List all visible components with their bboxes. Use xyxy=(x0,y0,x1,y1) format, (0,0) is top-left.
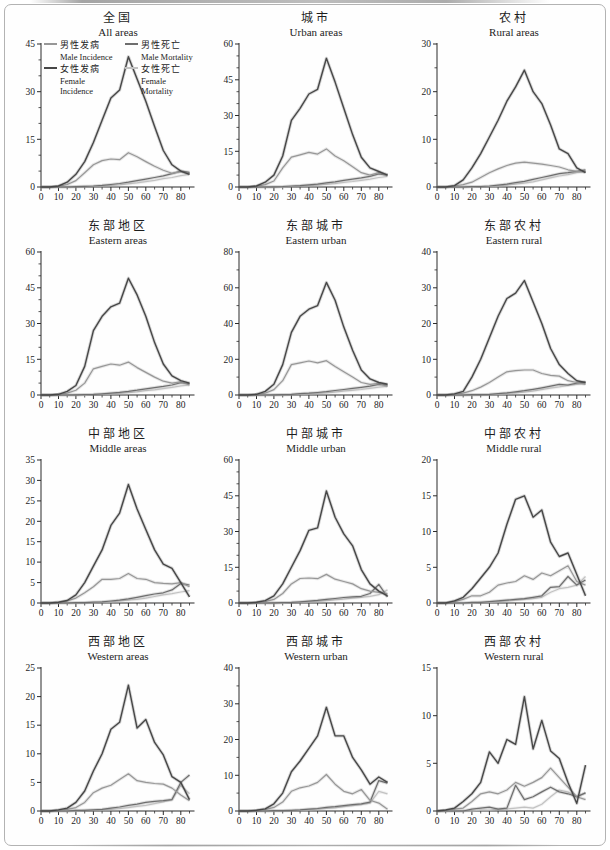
chart-plot-area: 01020304001020304050607080 xyxy=(410,246,596,418)
svg-text:30: 30 xyxy=(422,283,432,293)
svg-text:60: 60 xyxy=(141,400,151,410)
chart-rural-areas: 农村Rural areas010203001020304050607080 xyxy=(406,10,600,216)
svg-text:30: 30 xyxy=(287,816,297,826)
svg-text:10: 10 xyxy=(224,771,234,781)
chart-title-en: Eastern areas xyxy=(32,234,204,247)
chart-plot-area: 01530456001020304050607080 xyxy=(212,38,398,210)
series-female-incidence-line xyxy=(239,283,388,396)
svg-text:70: 70 xyxy=(555,192,565,202)
chart-plot: 01530456001020304050607080 xyxy=(212,38,398,206)
chart-middle-urban: 中部城市Middle urban015304560010203040506070… xyxy=(208,426,402,632)
legend-entry-female-mortality: 女性死亡Female Mortality xyxy=(125,64,197,97)
chart-plot-area: 02040608001020304050607080 xyxy=(212,246,398,418)
svg-text:10: 10 xyxy=(252,816,262,826)
svg-text:20: 20 xyxy=(467,400,477,410)
svg-text:70: 70 xyxy=(159,400,169,410)
svg-text:0: 0 xyxy=(39,816,44,826)
svg-text:10: 10 xyxy=(54,400,64,410)
svg-text:0: 0 xyxy=(228,599,233,609)
chart-title: 西部城市Western urban xyxy=(208,636,402,662)
chart-plot: 0510152001020304050607080 xyxy=(410,454,596,622)
chart-plot-area: 01530456001020304050607080 xyxy=(14,246,200,418)
svg-text:15: 15 xyxy=(422,664,432,674)
chart-title-en: Western rural xyxy=(428,650,600,663)
series-female-incidence-halo xyxy=(41,686,190,812)
legend-label-zh: 女性发病 xyxy=(60,64,100,74)
svg-text:15: 15 xyxy=(224,563,234,573)
chart-title-zh: 西部地区 xyxy=(32,636,204,650)
legend-label-zh: 女性死亡 xyxy=(141,64,181,74)
series-female-incidence-line xyxy=(239,59,388,188)
chart-title-en: Urban areas xyxy=(230,26,402,39)
svg-text:15: 15 xyxy=(26,721,36,731)
x-axis: 01020304050607080 xyxy=(435,187,591,202)
svg-text:30: 30 xyxy=(89,400,99,410)
svg-text:30: 30 xyxy=(287,608,297,618)
svg-text:15: 15 xyxy=(26,135,36,145)
series-male-incidence-halo xyxy=(41,574,190,603)
svg-text:60: 60 xyxy=(339,608,349,618)
svg-text:0: 0 xyxy=(426,391,431,401)
legend-column: 男性死亡Male Mortality女性死亡Female Mortality xyxy=(125,40,197,96)
svg-text:60: 60 xyxy=(339,400,349,410)
chart-title-zh: 全国 xyxy=(32,12,204,26)
svg-text:5: 5 xyxy=(30,578,35,588)
svg-text:0: 0 xyxy=(30,391,35,401)
svg-text:10: 10 xyxy=(54,816,64,826)
svg-text:60: 60 xyxy=(537,816,547,826)
series-male-incidence-halo xyxy=(41,774,190,811)
charts-grid: 全国All areas015304501020304050607080男性发病M… xyxy=(10,10,600,840)
svg-text:0: 0 xyxy=(426,807,431,817)
svg-text:0: 0 xyxy=(30,183,35,193)
chart-plot: 05101501020304050607080 xyxy=(410,662,596,830)
chart-title-en: All areas xyxy=(32,26,204,39)
chart-plot: 0510152025303501020304050607080 xyxy=(14,454,200,622)
svg-text:50: 50 xyxy=(520,192,530,202)
chart-title-zh: 东部农村 xyxy=(428,220,600,234)
chart-all-areas: 全国All areas015304501020304050607080男性发病M… xyxy=(10,10,204,216)
svg-text:0: 0 xyxy=(435,816,440,826)
chart-title: 农村Rural areas xyxy=(406,12,600,38)
svg-text:50: 50 xyxy=(322,400,332,410)
svg-text:30: 30 xyxy=(422,40,432,50)
svg-text:0: 0 xyxy=(435,400,440,410)
svg-text:45: 45 xyxy=(224,491,234,501)
chart-title-zh: 中部地区 xyxy=(32,428,204,442)
series-female-incidence-line xyxy=(41,686,190,812)
svg-text:45: 45 xyxy=(26,283,36,293)
chart-title-en: Rural areas xyxy=(428,26,600,39)
y-axis: 051015 xyxy=(422,664,438,817)
svg-text:10: 10 xyxy=(450,192,460,202)
svg-text:10: 10 xyxy=(450,608,460,618)
series-male-incidence-line xyxy=(41,774,190,811)
x-axis: 01020304050607080 xyxy=(237,187,393,202)
svg-text:30: 30 xyxy=(89,192,99,202)
chart-plot: 01020304001020304050607080 xyxy=(212,662,398,830)
svg-text:20: 20 xyxy=(26,517,36,527)
svg-text:20: 20 xyxy=(224,735,234,745)
chart-title-en: Middle areas xyxy=(32,442,204,455)
svg-text:70: 70 xyxy=(357,400,367,410)
svg-text:0: 0 xyxy=(435,192,440,202)
chart-title-en: Eastern rural xyxy=(428,234,600,247)
svg-text:15: 15 xyxy=(26,355,36,365)
svg-text:0: 0 xyxy=(30,599,35,609)
legend-label-zh: 男性发病 xyxy=(60,40,100,50)
svg-text:45: 45 xyxy=(26,40,36,50)
svg-text:40: 40 xyxy=(106,608,116,618)
svg-text:0: 0 xyxy=(30,807,35,817)
svg-text:50: 50 xyxy=(322,608,332,618)
chart-plot-area: 01530456001020304050607080 xyxy=(212,454,398,626)
chart-title: 东部农村Eastern rural xyxy=(406,220,600,246)
chart-title-en: Middle urban xyxy=(230,442,402,455)
svg-text:35: 35 xyxy=(26,456,36,466)
svg-text:0: 0 xyxy=(228,391,233,401)
svg-text:0: 0 xyxy=(426,183,431,193)
svg-text:50: 50 xyxy=(124,192,134,202)
x-axis: 01020304050607080 xyxy=(237,603,393,618)
svg-text:0: 0 xyxy=(237,816,242,826)
svg-text:30: 30 xyxy=(485,608,495,618)
svg-text:40: 40 xyxy=(224,319,234,329)
svg-text:40: 40 xyxy=(422,248,432,258)
legend-column: 男性发病Male Incidence女性发病Female Incidence xyxy=(44,40,116,96)
